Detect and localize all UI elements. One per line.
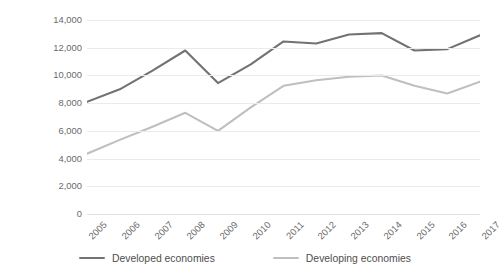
plot-area [87, 20, 480, 214]
y-tick-label: 2,000 [30, 180, 82, 191]
y-tick-label: 6,000 [30, 125, 82, 136]
y-tick-label: 0 [30, 208, 82, 219]
x-tick-label: 2013 [339, 219, 371, 251]
x-tick-label: 2017 [470, 219, 502, 251]
chart-legend: Developed economies Developing economies [0, 248, 490, 268]
x-tick-label: 2009 [208, 219, 240, 251]
x-tick-label: 2007 [142, 219, 174, 251]
legend-label-developed: Developed economies [112, 253, 215, 264]
x-tick-label: 2014 [372, 219, 404, 251]
x-tick-label: 2006 [110, 219, 142, 251]
series-line [87, 33, 480, 102]
developing-line-swatch [273, 257, 299, 260]
legend-item-developing: Developing economies [273, 253, 411, 264]
gridline [87, 186, 480, 187]
gridline [87, 159, 480, 160]
y-axis-tick-labels: 02,0004,0006,0008,00010,00012,00014,000 [25, 20, 82, 214]
x-tick-label: 2012 [306, 219, 338, 251]
x-tick-label: 2016 [437, 219, 469, 251]
legend-item-developed: Developed economies [79, 253, 215, 264]
x-tick-label: 2005 [77, 219, 109, 251]
gridline [87, 48, 480, 49]
x-tick-label: 2011 [273, 219, 305, 251]
x-tick-label: 2015 [404, 219, 436, 251]
gridline [87, 20, 480, 21]
gridline [87, 131, 480, 132]
x-tick-label: 2008 [175, 219, 207, 251]
y-tick-label: 12,000 [30, 42, 82, 53]
y-axis-title: Billions of US dollars [0, 0, 26, 222]
developed-line-swatch [79, 257, 105, 260]
y-tick-label: 14,000 [30, 14, 82, 25]
legend-label-developing: Developing economies [306, 253, 411, 264]
series-lines [87, 20, 480, 214]
y-tick-label: 4,000 [30, 153, 82, 164]
y-tick-label: 8,000 [30, 97, 82, 108]
x-tick-label: 2010 [241, 219, 273, 251]
y-tick-label: 10,000 [30, 69, 82, 80]
series-line [87, 75, 480, 153]
gridline [87, 103, 480, 104]
gridline [87, 75, 480, 76]
